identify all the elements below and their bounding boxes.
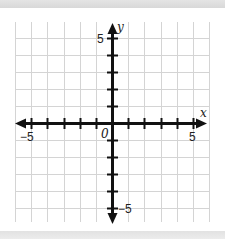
y-tick-label-neg5: −5: [118, 202, 132, 216]
origin-label: 0: [101, 127, 109, 141]
y-axis-up-arrow-icon: [108, 23, 118, 34]
y-axis-down-arrow-icon: [108, 213, 118, 224]
y-tick-label-5: 5: [97, 32, 104, 46]
bottom-border-band: [0, 231, 225, 239]
x-tick-label-5: 5: [189, 130, 196, 144]
x-axis-left-arrow-icon: [15, 119, 26, 129]
y-axis-label: y: [116, 20, 124, 34]
x-axis-label: x: [200, 106, 207, 120]
x-tick-label-neg5: −5: [20, 130, 34, 144]
x-axis-right-arrow-icon: [196, 119, 207, 129]
coordinate-plane: y x 5 −5 −5 5 0: [0, 0, 225, 239]
